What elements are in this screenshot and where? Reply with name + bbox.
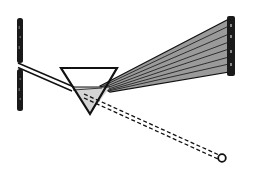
spectrum-fan [100,19,229,92]
prism-dispersion-diagram [0,0,253,178]
diagram-canvas [0,0,253,178]
observer-point [218,154,226,162]
dashed-ray [84,94,219,159]
spectrum-screen [227,16,235,76]
